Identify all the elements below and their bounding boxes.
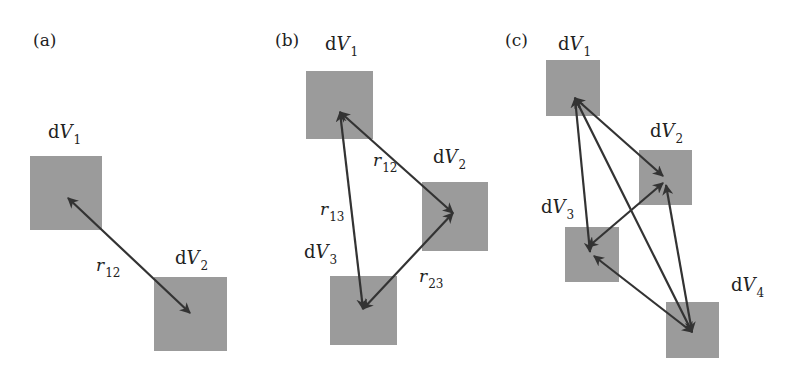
volume-label-dv3: dV3 bbox=[541, 196, 574, 222]
distance-arrow-r12 bbox=[68, 198, 190, 313]
volume-element-dv3 bbox=[330, 276, 397, 345]
volume-label-dv2: dV2 bbox=[175, 247, 208, 273]
distance-arrow-r23 bbox=[363, 213, 453, 309]
figure-canvas: (a) dV1 dV2 r12 (b) dV1 dV2 dV3 r12 r13 … bbox=[0, 0, 789, 374]
volume-label-dv2: dV2 bbox=[650, 120, 683, 146]
panel-b: (b) dV1 dV2 dV3 r12 r13 r23 bbox=[275, 30, 488, 345]
panel-c: (c) dV1 dV2 dV3 dV4 bbox=[505, 30, 765, 358]
panel-label-c: (c) bbox=[505, 30, 528, 50]
volume-element-dv1 bbox=[546, 60, 600, 116]
panel-label-a: (a) bbox=[33, 30, 56, 50]
volume-element-dv2 bbox=[422, 182, 488, 251]
volume-label-dv1: dV1 bbox=[558, 33, 591, 59]
volume-label-dv3: dV3 bbox=[304, 241, 337, 267]
distance-arrow-r23 bbox=[588, 183, 663, 247]
panel-a: (a) dV1 dV2 r12 bbox=[30, 30, 227, 351]
volume-label-dv2: dV2 bbox=[433, 146, 466, 172]
volume-element-dv3 bbox=[565, 227, 619, 282]
distance-label-r13: r13 bbox=[320, 199, 344, 224]
distance-label-r23: r23 bbox=[419, 266, 443, 291]
distance-label-r12: r12 bbox=[96, 255, 120, 280]
volume-element-dv1 bbox=[306, 71, 373, 139]
distance-arrow-r34 bbox=[594, 256, 692, 332]
volume-label-dv1: dV1 bbox=[48, 121, 81, 147]
volume-label-dv1: dV1 bbox=[325, 33, 358, 59]
panel-label-b: (b) bbox=[275, 30, 299, 50]
volume-label-dv4: dV4 bbox=[731, 274, 765, 300]
